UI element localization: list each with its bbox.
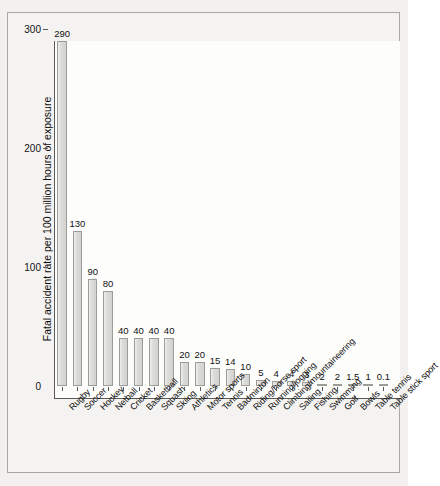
x-tick-mark	[184, 387, 185, 391]
x-tick-mark	[322, 387, 323, 391]
x-tick-mark	[169, 387, 170, 391]
x-tick-mark	[200, 387, 201, 391]
x-tick-mark	[215, 387, 216, 391]
x-tick-mark	[261, 387, 262, 391]
x-tick-mark	[154, 387, 155, 391]
x-tick-mark	[246, 387, 247, 391]
x-tick-mark	[383, 387, 384, 391]
x-axis-labels: RugbySoccerHockeyNetballCricketBasketbal…	[8, 13, 416, 486]
figure-frame: Fatal accident rate per 100 million hour…	[7, 12, 400, 473]
x-tick-mark	[292, 387, 293, 391]
x-tick-mark	[276, 387, 277, 391]
x-tick-mark	[307, 387, 308, 391]
x-tick-mark	[230, 387, 231, 391]
x-tick-mark	[62, 387, 63, 391]
x-tick-mark	[77, 387, 78, 391]
x-tick-mark	[139, 387, 140, 391]
x-tick-mark	[353, 387, 354, 391]
x-tick-mark	[337, 387, 338, 391]
x-tick-mark	[368, 387, 369, 391]
x-tick-mark	[123, 387, 124, 391]
x-tick-mark	[93, 387, 94, 391]
x-tick-mark	[108, 387, 109, 391]
